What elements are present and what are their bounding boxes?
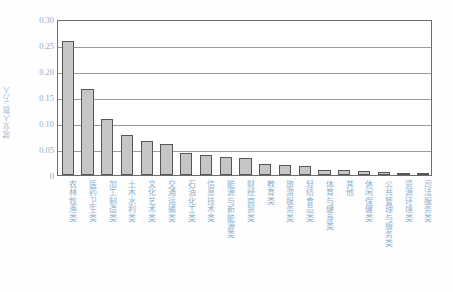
bar: [239, 158, 251, 175]
bar: [62, 41, 74, 175]
bar: [160, 144, 172, 175]
y-tick-label: 0.25: [39, 42, 54, 51]
x-tick-label: 资源环境类: [393, 180, 413, 222]
bar: [141, 141, 153, 175]
bar: [397, 173, 409, 175]
x-tick-label: 体育与健身类: [314, 180, 334, 230]
bar: [299, 166, 311, 175]
bar: [101, 119, 113, 175]
x-tick-label: 教育类: [254, 180, 274, 205]
x-tick-label: 公共管理与服务类: [373, 180, 393, 247]
bar: [81, 89, 93, 175]
bar-chart-figure: 就业人数/万人 00.050.100.150.200.250.30 农林牧渔类医…: [0, 0, 453, 292]
x-tick-label: 其他: [333, 180, 353, 197]
x-tick-label: 休闲保健类: [353, 180, 373, 222]
x-tick-label: 信息技术类: [195, 180, 215, 222]
x-tick-label: 文化艺术类: [136, 180, 156, 222]
bar: [121, 135, 133, 175]
x-axis-category-labels: 农林牧渔类医药卫生类加工制造类土木水利类文化艺术类交通运输类石油化工类信息技术类…: [57, 180, 432, 290]
plot-area: [57, 20, 432, 176]
x-tick-label: 司法服务类: [412, 180, 432, 222]
bar: [378, 172, 390, 175]
bar: [417, 173, 429, 175]
x-tick-label: 农林牧渔类: [57, 180, 77, 222]
y-tick-label: 0.20: [39, 68, 54, 77]
y-tick-label: 0.30: [39, 16, 54, 25]
bar: [318, 170, 330, 175]
y-tick-label: 0.05: [39, 146, 54, 155]
y-axis-tick-labels: 00.050.100.150.200.250.30: [18, 0, 54, 292]
x-tick-label: 交通运输类: [156, 180, 176, 222]
bar: [358, 171, 370, 175]
x-tick-label: 土木水利类: [116, 180, 136, 222]
bar: [180, 153, 192, 175]
x-tick-label: 能源与新能源类: [215, 180, 235, 239]
bar: [338, 170, 350, 175]
bar: [259, 164, 271, 175]
y-tick-label: 0.10: [39, 120, 54, 129]
x-tick-label: 加工制造类: [96, 180, 116, 222]
y-axis-title: 就业人数/万人: [0, 52, 14, 172]
bar: [200, 155, 212, 175]
x-tick-label: 石油化工类: [175, 180, 195, 222]
y-tick-label: 0.15: [39, 94, 54, 103]
bar: [220, 157, 232, 175]
x-tick-label: 旅游服务类: [274, 180, 294, 222]
x-tick-label: 医药卫生类: [77, 180, 97, 222]
bar-series: [58, 21, 431, 175]
y-tick-label: 0: [50, 172, 54, 181]
x-tick-label: 财经商贸类: [235, 180, 255, 222]
bar: [279, 165, 291, 175]
x-tick-label: 轻纺食品类: [294, 180, 314, 222]
